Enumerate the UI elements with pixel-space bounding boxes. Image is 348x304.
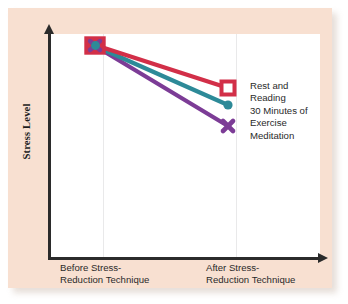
chart-panel: Stress Level Before Stress- Reduction Te… bbox=[8, 8, 332, 288]
legend-label-rest-and-reading-l2: Reading bbox=[250, 92, 336, 104]
x-tick-label-after: After Stress- Reduction Technique bbox=[206, 262, 295, 285]
legend-label-exercise-l1: 30 Minutes of bbox=[250, 105, 336, 117]
chart-legend: Rest and Reading 30 Minutes of Exercise … bbox=[250, 80, 336, 142]
plot-area bbox=[50, 34, 320, 258]
legend-label-meditation: Meditation bbox=[250, 130, 336, 142]
x-tick-label-before: Before Stress- Reduction Technique bbox=[60, 262, 149, 285]
x-axis-line bbox=[48, 257, 320, 260]
y-axis-line bbox=[48, 32, 51, 260]
x-axis-arrow-icon bbox=[318, 253, 328, 263]
y-axis-title: Stress Level bbox=[21, 72, 32, 192]
gridline-before bbox=[103, 34, 104, 258]
legend-label-exercise-l2: Exercise bbox=[250, 117, 336, 129]
y-axis-arrow-icon bbox=[44, 24, 54, 34]
legend-label-rest-and-reading-l1: Rest and bbox=[250, 80, 336, 92]
gridline-after bbox=[236, 34, 237, 258]
chart-figure: Stress Level Before Stress- Reduction Te… bbox=[0, 0, 348, 304]
